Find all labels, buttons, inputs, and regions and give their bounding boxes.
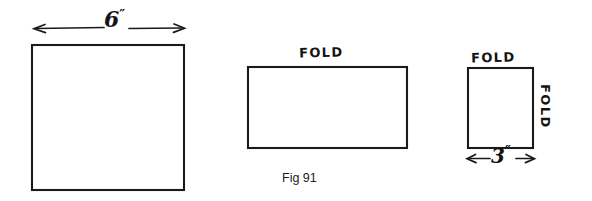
fold-label-right-top: FOLD <box>471 49 516 65</box>
inch-mark-3: ″ <box>505 143 510 158</box>
dimension-value-6: 6 <box>104 6 119 32</box>
panel-unfolded-sheet <box>32 24 185 190</box>
panel-half-folded-sheet <box>248 67 407 148</box>
fold-label-middle-top: FOLD <box>299 44 344 60</box>
square-6in-outline <box>32 45 184 190</box>
square-3in-outline <box>468 68 533 148</box>
rectangle-half-fold-outline <box>248 67 407 148</box>
dimension-value-3: 3 <box>491 144 505 168</box>
dimension-label-3-inch: 3″ <box>491 144 510 166</box>
figure-caption: Fig 91 <box>282 171 317 185</box>
dimension-label-6-inch: 6″ <box>104 8 124 30</box>
fold-label-right-side: FOLD <box>538 84 553 129</box>
inch-mark-6: ″ <box>119 7 124 22</box>
